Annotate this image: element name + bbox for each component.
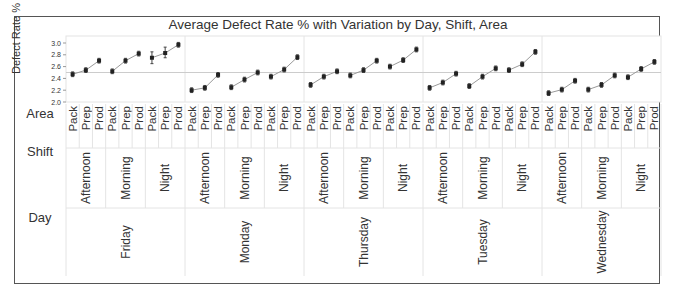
data-point[interactable] xyxy=(216,73,220,77)
area-label: Pack xyxy=(384,106,396,132)
shift-label: Night xyxy=(277,163,291,192)
data-point[interactable] xyxy=(481,75,485,79)
area-label: Prod xyxy=(648,106,660,130)
data-point[interactable] xyxy=(229,85,233,89)
data-point[interactable] xyxy=(335,69,339,73)
data-point[interactable] xyxy=(203,86,207,90)
data-point[interactable] xyxy=(639,67,643,71)
data-point[interactable] xyxy=(454,72,458,76)
area-label: Pack xyxy=(424,106,436,132)
data-point[interactable] xyxy=(494,66,498,70)
shift-label: Morning xyxy=(238,156,252,199)
area-label: Prep xyxy=(318,106,330,130)
data-point[interactable] xyxy=(375,59,379,63)
data-point[interactable] xyxy=(256,71,260,75)
data-point[interactable] xyxy=(163,51,167,55)
data-point[interactable] xyxy=(652,60,656,64)
data-point[interactable] xyxy=(560,88,564,92)
shift-label: Afternoon xyxy=(555,152,569,204)
y-tick-label: 2.8 xyxy=(51,51,61,58)
area-label: Pack xyxy=(225,106,237,132)
data-point[interactable] xyxy=(137,52,141,56)
variability-chart: 2.02.22.42.62.83.0AreaShiftDayPackPrepPr… xyxy=(0,0,676,296)
data-point[interactable] xyxy=(269,75,273,79)
data-point[interactable] xyxy=(428,86,432,90)
data-point[interactable] xyxy=(97,59,101,63)
shift-label: Afternoon xyxy=(198,152,212,204)
y-tick-label: 2.0 xyxy=(51,99,61,106)
area-label: Prep xyxy=(596,106,608,130)
shift-label: Night xyxy=(396,163,410,192)
data-point[interactable] xyxy=(362,68,366,72)
data-point[interactable] xyxy=(533,50,537,54)
area-label: Pack xyxy=(186,106,198,132)
data-point[interactable] xyxy=(84,68,88,72)
data-point[interactable] xyxy=(573,79,577,83)
area-label: Prod xyxy=(252,106,264,130)
area-label: Prep xyxy=(80,106,92,130)
area-label: Prod xyxy=(172,106,184,130)
area-label: Prod xyxy=(609,106,621,130)
shift-label: Night xyxy=(158,163,172,192)
shift-label: Night xyxy=(634,163,648,192)
data-point[interactable] xyxy=(613,73,617,77)
area-label: Prep xyxy=(397,106,409,130)
data-point[interactable] xyxy=(626,75,630,79)
data-point[interactable] xyxy=(71,72,75,76)
area-label: Pack xyxy=(543,106,555,132)
area-label: Prep xyxy=(239,106,251,130)
data-point[interactable] xyxy=(467,84,471,88)
day-label: Thursday xyxy=(357,217,371,267)
area-label: Prod xyxy=(529,106,541,130)
day-label: Monday xyxy=(238,221,252,264)
data-point[interactable] xyxy=(547,91,551,95)
data-point[interactable] xyxy=(600,83,604,87)
data-point[interactable] xyxy=(110,69,114,73)
data-point[interactable] xyxy=(282,68,286,72)
area-label: Pack xyxy=(265,106,277,132)
area-label: Prep xyxy=(516,106,528,130)
y-tick-label: 3.0 xyxy=(51,40,61,47)
data-point[interactable] xyxy=(401,58,405,62)
data-point[interactable] xyxy=(150,56,154,60)
area-label: Prod xyxy=(212,106,224,130)
data-point[interactable] xyxy=(586,88,590,92)
area-label: Prod xyxy=(291,106,303,130)
data-point[interactable] xyxy=(414,47,418,51)
row-header-shift: Shift xyxy=(27,144,53,159)
data-point[interactable] xyxy=(388,65,392,69)
shift-label: Afternoon xyxy=(317,152,331,204)
area-label: Prod xyxy=(133,106,145,130)
shift-label: Morning xyxy=(595,156,609,199)
y-tick-label: 2.4 xyxy=(51,75,61,82)
data-point[interactable] xyxy=(243,78,247,82)
data-point[interactable] xyxy=(124,59,128,63)
data-point[interactable] xyxy=(348,73,352,77)
day-label: Wednesday xyxy=(595,210,609,273)
data-point[interactable] xyxy=(322,75,326,79)
row-header-day: Day xyxy=(28,210,52,225)
y-tick-label: 2.2 xyxy=(51,87,61,94)
data-point[interactable] xyxy=(295,55,299,59)
area-label: Prod xyxy=(93,106,105,130)
area-label: Prep xyxy=(120,106,132,130)
day-label: Tuesday xyxy=(476,219,490,265)
area-label: Prod xyxy=(490,106,502,130)
area-label: Prod xyxy=(410,106,422,130)
data-point[interactable] xyxy=(309,83,313,87)
data-point[interactable] xyxy=(190,88,194,92)
area-label: Prod xyxy=(331,106,343,130)
area-label: Prep xyxy=(477,106,489,130)
shift-label: Morning xyxy=(119,156,133,199)
area-label: Prep xyxy=(278,106,290,130)
shift-label: Afternoon xyxy=(79,152,93,204)
shift-label: Afternoon xyxy=(436,152,450,204)
area-label: Pack xyxy=(503,106,515,132)
area-label: Pack xyxy=(106,106,118,132)
data-point[interactable] xyxy=(441,81,445,85)
data-point[interactable] xyxy=(507,68,511,72)
area-label: Prod xyxy=(371,106,383,130)
area-label: Prep xyxy=(159,106,171,130)
data-point[interactable] xyxy=(176,43,180,47)
data-point[interactable] xyxy=(520,62,524,66)
